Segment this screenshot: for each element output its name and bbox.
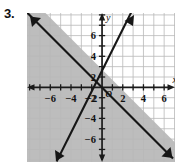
graph-figure: 3.: [0, 0, 184, 164]
y-axis-label: y: [105, 13, 111, 23]
x-tick-label-neg6: −6: [45, 93, 56, 104]
origin-label: O: [106, 89, 113, 99]
y-tick-label-neg2: −2: [85, 93, 96, 104]
x-axis-label: x: [172, 74, 176, 85]
problem-number: 3.: [4, 6, 14, 21]
graph-svg: −6 −4 −2 2 4 6 6 4 2 −2 −4 −6 O x y: [27, 13, 175, 162]
x-tick-label-4: 4: [141, 93, 147, 104]
x-tick-label-2: 2: [120, 93, 125, 104]
x-tick-label-neg4: −4: [65, 93, 77, 104]
coordinate-plane: −6 −4 −2 2 4 6 6 4 2 −2 −4 −6 O x y: [27, 13, 175, 162]
x-tick-label-6: 6: [162, 93, 167, 104]
y-tick-label-neg6: −6: [85, 134, 96, 145]
y-tick-label-6: 6: [91, 30, 96, 41]
y-tick-label-4: 4: [91, 51, 97, 62]
y-tick-label-2: 2: [91, 72, 96, 83]
y-tick-label-neg4: −4: [85, 113, 97, 124]
